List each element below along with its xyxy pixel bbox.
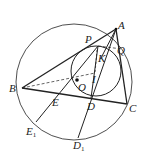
label-b: B xyxy=(9,82,16,94)
label-e1: E1 xyxy=(25,125,37,139)
label-a: A xyxy=(117,19,125,31)
label-d1: D1 xyxy=(72,139,85,153)
label-q: Q xyxy=(117,44,125,56)
side-ac xyxy=(116,29,127,104)
label-e: E xyxy=(51,96,59,108)
label-i: I xyxy=(91,73,97,85)
label-k: K xyxy=(97,52,106,64)
label-d: D xyxy=(86,100,95,112)
diagram-canvas: A B C D E E1 D1 P Q K I O xyxy=(0,0,146,153)
label-c: C xyxy=(129,102,137,114)
label-o: O xyxy=(78,81,86,93)
point-a-dot xyxy=(115,28,118,31)
geometry-diagram: A B C D E E1 D1 P Q K I O xyxy=(0,0,146,153)
label-p: P xyxy=(84,33,92,45)
